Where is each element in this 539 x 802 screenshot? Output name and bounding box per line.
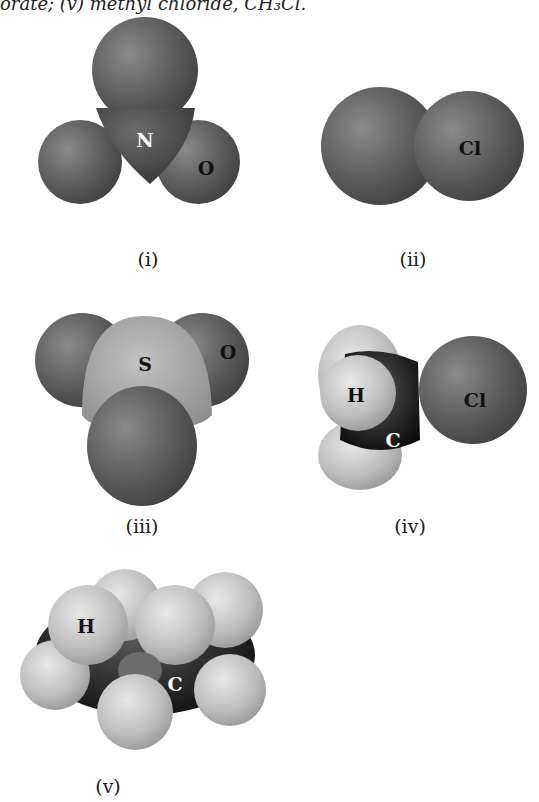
atom-label-h: H <box>347 384 365 406</box>
atom-label-s: S <box>138 353 152 375</box>
atom-label-n: N <box>136 129 153 151</box>
atom-label-c: C <box>167 673 182 695</box>
atom-label-cl: Cl <box>459 137 481 159</box>
figure-label-v: (v) <box>95 775 121 797</box>
molecule-figures <box>0 0 539 802</box>
figure-label-i: (i) <box>138 248 159 270</box>
molecule-ii <box>321 87 524 205</box>
figure-label-iv: (iv) <box>394 515 426 537</box>
figure-label-ii: (ii) <box>400 248 427 270</box>
molecule-v <box>20 569 266 750</box>
atom-label-o: O <box>220 341 237 363</box>
figure-label-iii: (iii) <box>125 515 158 537</box>
atom-label-cl: Cl <box>464 389 486 411</box>
molecule-iii <box>35 313 249 506</box>
atom-label-h: H <box>77 615 95 637</box>
molecule-iv <box>318 325 527 490</box>
atom-label-c: C <box>385 429 400 451</box>
atom-label-o: O <box>198 157 215 179</box>
